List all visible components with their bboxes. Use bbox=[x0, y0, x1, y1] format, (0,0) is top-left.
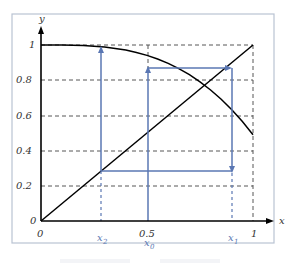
y-tick-1: 1 bbox=[29, 39, 35, 50]
x2-label: x 2 bbox=[97, 232, 108, 246]
horizontal-gridlines bbox=[41, 45, 253, 186]
x-axis-label: x bbox=[279, 215, 285, 226]
function-curve bbox=[41, 45, 253, 135]
cobweb-path bbox=[98, 46, 235, 221]
y-tick-0-2: 0.2 bbox=[16, 180, 32, 191]
y-tick-0-4: 0.4 bbox=[16, 145, 32, 156]
figure-frame bbox=[12, 14, 274, 243]
svg-text:1: 1 bbox=[234, 238, 238, 246]
faint-caption bbox=[60, 259, 220, 263]
y-tick-0: 0 bbox=[30, 215, 37, 226]
svg-text:0: 0 bbox=[150, 243, 155, 251]
y-axis-label: y bbox=[38, 13, 45, 24]
svg-text:2: 2 bbox=[102, 238, 108, 246]
y-tick-0-6: 0.6 bbox=[16, 110, 33, 121]
x1-label: x 1 bbox=[228, 232, 238, 246]
x-tick-0: 0 bbox=[37, 228, 44, 239]
x-tick-1: 1 bbox=[251, 228, 257, 239]
vertical-gridlines bbox=[148, 45, 253, 221]
y-tick-0-8: 0.8 bbox=[16, 74, 32, 85]
y-axis-arrow-icon bbox=[38, 26, 44, 34]
x-axis-arrow-icon bbox=[266, 218, 274, 224]
x0-label: x 0 bbox=[144, 237, 155, 251]
cobweb-diagram: y x 1 0.8 0.6 0.4 0.2 0 0 0.5 1 x 2 x 0 … bbox=[0, 0, 306, 268]
